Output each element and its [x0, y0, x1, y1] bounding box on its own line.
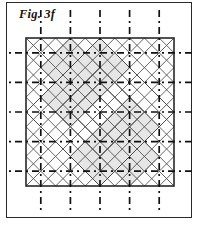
figure-caption: Fig. 3f [19, 7, 55, 22]
figure-diagram [7, 3, 193, 219]
figure-panel: Fig. 3f [6, 2, 192, 218]
